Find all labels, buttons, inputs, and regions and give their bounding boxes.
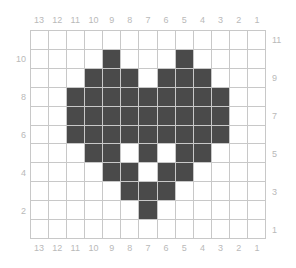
grid-cell-filled[interactable] xyxy=(139,107,157,126)
grid-cell-empty[interactable] xyxy=(194,50,212,69)
grid-cell-filled[interactable] xyxy=(121,107,139,126)
grid-cell-empty[interactable] xyxy=(103,182,121,201)
grid-cell-filled[interactable] xyxy=(85,144,103,163)
grid-cell-filled[interactable] xyxy=(139,126,157,145)
grid-cell-filled[interactable] xyxy=(176,88,194,107)
grid-cell-empty[interactable] xyxy=(158,31,176,50)
grid-cell-empty[interactable] xyxy=(31,50,49,69)
grid-cell-empty[interactable] xyxy=(194,31,212,50)
grid-cell-empty[interactable] xyxy=(49,31,67,50)
grid-cell-empty[interactable] xyxy=(121,144,139,163)
grid-cell-empty[interactable] xyxy=(139,163,157,182)
grid-cell-empty[interactable] xyxy=(31,88,49,107)
grid-cell-empty[interactable] xyxy=(31,201,49,220)
grid-cell-empty[interactable] xyxy=(31,144,49,163)
grid-cell-empty[interactable] xyxy=(248,220,266,239)
grid-cell-filled[interactable] xyxy=(176,50,194,69)
grid-cell-filled[interactable] xyxy=(103,50,121,69)
grid-cell-filled[interactable] xyxy=(121,69,139,88)
grid-cell-empty[interactable] xyxy=(85,163,103,182)
grid-cell-filled[interactable] xyxy=(139,182,157,201)
grid-cell-filled[interactable] xyxy=(67,107,85,126)
grid-cell-filled[interactable] xyxy=(103,69,121,88)
grid-cell-empty[interactable] xyxy=(194,220,212,239)
grid-cell-empty[interactable] xyxy=(176,182,194,201)
grid-cell-empty[interactable] xyxy=(67,201,85,220)
grid-cell-filled[interactable] xyxy=(158,88,176,107)
grid-cell-empty[interactable] xyxy=(121,220,139,239)
grid-cell-filled[interactable] xyxy=(103,107,121,126)
grid-cell-filled[interactable] xyxy=(194,107,212,126)
grid-cell-empty[interactable] xyxy=(49,88,67,107)
pixel-grid-canvas[interactable] xyxy=(30,30,266,239)
grid-cell-empty[interactable] xyxy=(176,201,194,220)
grid-cell-empty[interactable] xyxy=(67,182,85,201)
grid-cell-empty[interactable] xyxy=(85,201,103,220)
grid-cell-filled[interactable] xyxy=(139,88,157,107)
grid-cell-empty[interactable] xyxy=(31,126,49,145)
grid-cell-filled[interactable] xyxy=(176,163,194,182)
grid-cell-filled[interactable] xyxy=(103,144,121,163)
grid-cell-empty[interactable] xyxy=(248,107,266,126)
grid-cell-empty[interactable] xyxy=(49,126,67,145)
grid-cell-empty[interactable] xyxy=(230,163,248,182)
grid-cell-empty[interactable] xyxy=(31,107,49,126)
grid-cell-empty[interactable] xyxy=(67,220,85,239)
grid-cell-empty[interactable] xyxy=(67,144,85,163)
grid-cell-filled[interactable] xyxy=(176,69,194,88)
grid-cell-filled[interactable] xyxy=(85,69,103,88)
grid-cell-empty[interactable] xyxy=(230,69,248,88)
grid-cell-empty[interactable] xyxy=(31,220,49,239)
grid-cell-filled[interactable] xyxy=(194,88,212,107)
grid-cell-empty[interactable] xyxy=(194,182,212,201)
grid-cell-empty[interactable] xyxy=(158,220,176,239)
grid-cell-empty[interactable] xyxy=(85,220,103,239)
grid-cell-empty[interactable] xyxy=(176,220,194,239)
grid-cell-empty[interactable] xyxy=(230,126,248,145)
grid-cell-empty[interactable] xyxy=(139,31,157,50)
grid-cell-empty[interactable] xyxy=(158,50,176,69)
grid-cell-empty[interactable] xyxy=(49,144,67,163)
grid-cell-empty[interactable] xyxy=(212,31,230,50)
grid-cell-empty[interactable] xyxy=(103,201,121,220)
grid-cell-empty[interactable] xyxy=(212,50,230,69)
grid-cell-empty[interactable] xyxy=(103,31,121,50)
grid-cell-filled[interactable] xyxy=(158,182,176,201)
grid-cell-filled[interactable] xyxy=(103,88,121,107)
grid-cell-empty[interactable] xyxy=(49,182,67,201)
grid-cell-empty[interactable] xyxy=(158,201,176,220)
grid-cell-empty[interactable] xyxy=(248,126,266,145)
grid-cell-empty[interactable] xyxy=(248,163,266,182)
grid-cell-filled[interactable] xyxy=(103,126,121,145)
grid-cell-empty[interactable] xyxy=(158,144,176,163)
grid-cell-empty[interactable] xyxy=(85,182,103,201)
grid-cell-empty[interactable] xyxy=(85,31,103,50)
grid-cell-filled[interactable] xyxy=(85,126,103,145)
grid-cell-empty[interactable] xyxy=(230,144,248,163)
grid-cell-empty[interactable] xyxy=(31,182,49,201)
grid-cell-empty[interactable] xyxy=(230,50,248,69)
grid-cell-empty[interactable] xyxy=(49,69,67,88)
grid-cell-filled[interactable] xyxy=(85,88,103,107)
grid-cell-filled[interactable] xyxy=(103,163,121,182)
grid-cell-empty[interactable] xyxy=(103,220,121,239)
grid-cell-empty[interactable] xyxy=(85,50,103,69)
grid-cell-filled[interactable] xyxy=(121,88,139,107)
grid-cell-empty[interactable] xyxy=(139,220,157,239)
grid-cell-empty[interactable] xyxy=(31,31,49,50)
grid-cell-empty[interactable] xyxy=(67,163,85,182)
grid-cell-filled[interactable] xyxy=(121,163,139,182)
grid-cell-filled[interactable] xyxy=(176,107,194,126)
grid-cell-filled[interactable] xyxy=(139,144,157,163)
grid-cell-filled[interactable] xyxy=(121,182,139,201)
grid-cell-filled[interactable] xyxy=(121,126,139,145)
grid-cell-empty[interactable] xyxy=(67,69,85,88)
grid-cell-empty[interactable] xyxy=(212,69,230,88)
grid-cell-filled[interactable] xyxy=(194,126,212,145)
grid-cell-empty[interactable] xyxy=(139,50,157,69)
grid-cell-empty[interactable] xyxy=(248,50,266,69)
grid-cell-empty[interactable] xyxy=(121,201,139,220)
grid-cell-empty[interactable] xyxy=(139,69,157,88)
grid-cell-empty[interactable] xyxy=(248,182,266,201)
grid-cell-empty[interactable] xyxy=(248,88,266,107)
